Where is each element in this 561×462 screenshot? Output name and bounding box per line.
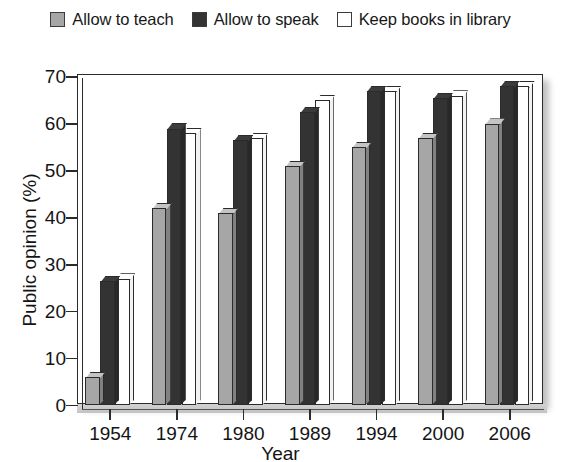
x-tick-mark [309,409,311,420]
y-tick-mark [66,170,78,172]
bar-front-face [152,208,167,405]
plot-axis-lip-left [82,78,83,409]
legend-item-books: Keep books in library [337,10,511,29]
x-tick-mark [376,409,378,420]
x-tick-mark [109,409,111,420]
bar-front-face [85,377,100,405]
x-tick-label: 2006 [465,423,555,445]
legend-label-teach: Allow to teach [72,10,173,29]
bar-front-face [218,213,233,405]
y-tick-mark [66,358,78,360]
y-tick-mark [66,123,78,125]
y-tick-label: 0 [22,395,66,417]
x-tick-mark [243,409,245,420]
bar-front-face [485,124,500,406]
legend-item-speak: Allow to speak [192,10,319,29]
y-tick-mark [66,76,78,78]
legend-item-teach: Allow to teach [50,10,173,29]
x-tick-mark [509,409,511,420]
legend-swatch-speak [192,12,207,27]
plot-axis-lip-bottom [82,409,544,410]
chart-legend: Allow to teach Allow to speak Keep books… [0,0,561,38]
y-tick-mark [66,405,78,407]
y-axis-title: Public opinion (%) [19,110,41,390]
bar-front-face [285,166,300,405]
y-tick-mark [66,217,78,219]
y-tick-label: 70 [22,66,66,88]
x-axis-title: Year [0,443,561,462]
bar-front-face [418,138,433,405]
bar-front-face [352,147,367,405]
x-tick-mark [176,409,178,420]
legend-label-books: Keep books in library [359,10,511,29]
y-tick-mark [66,311,78,313]
legend-swatch-books [337,12,352,27]
legend-label-speak: Allow to speak [214,10,319,29]
y-tick-mark [66,264,78,266]
x-tick-mark [442,409,444,420]
